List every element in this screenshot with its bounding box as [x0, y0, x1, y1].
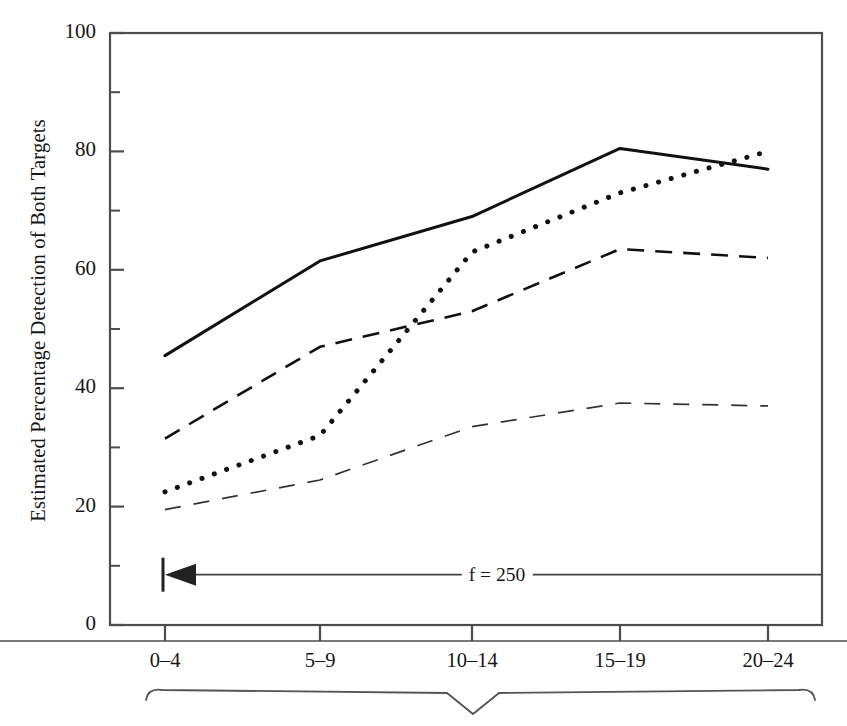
line-chart-canvas	[0, 0, 847, 726]
plot-frame-rect	[110, 33, 822, 625]
series-line-solid	[165, 148, 768, 355]
y-axis-label-container: Estimated Percentage Detection of Both T…	[18, 0, 58, 640]
brace-path	[146, 690, 815, 714]
x-tick-label: 0–4	[150, 649, 181, 672]
series-line-thin-dashed	[165, 403, 768, 510]
x-tick-label: 20–24	[742, 649, 793, 672]
data-series-group	[165, 148, 768, 509]
x-axis-ticks	[0, 625, 847, 641]
y-tick-label: 100	[65, 19, 97, 44]
x-tick-label: 10–14	[446, 649, 497, 672]
annotation-text: f = 250	[462, 564, 533, 586]
x-axis-brace	[146, 690, 815, 714]
y-axis-label: Estimated Percentage Detection of Both T…	[27, 119, 50, 522]
plot-frame	[110, 33, 822, 625]
annotation-arrowhead-icon	[165, 564, 196, 586]
series-line-dotted	[165, 151, 768, 491]
series-line-dashed	[165, 249, 768, 438]
y-tick-label: 0	[86, 611, 97, 636]
y-tick-label: 20	[75, 493, 96, 518]
x-tick-label: 15–19	[594, 649, 645, 672]
y-tick-label: 80	[75, 137, 96, 162]
y-axis-ticks	[110, 33, 124, 625]
x-tick-label: 5–9	[305, 649, 336, 672]
chart-figure: Estimated Percentage Detection of Both T…	[0, 0, 847, 726]
y-tick-label: 40	[75, 374, 96, 399]
y-tick-label: 60	[75, 256, 96, 281]
